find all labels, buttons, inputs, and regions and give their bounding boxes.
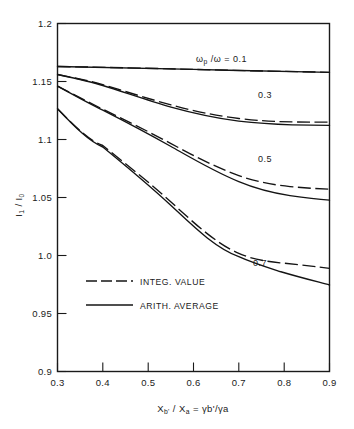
chart-background	[0, 0, 354, 429]
x-tick-label-0: 0.3	[50, 377, 64, 388]
y-tick-label-2: 1.0	[38, 250, 52, 261]
y-tick-label-5: 1.15	[32, 76, 52, 87]
y-tick-label-0: 0.9	[38, 366, 52, 377]
curve-annotation-1: 0.3	[258, 90, 272, 100]
y-tick-label-3: 1.05	[32, 192, 52, 203]
curve-annotation-2: 0.5	[258, 154, 272, 164]
x-tick-label-5: 0.8	[277, 377, 291, 388]
curve-annotation-3: 0.7	[253, 258, 267, 268]
y-tick-label-1: 0.95	[32, 308, 52, 319]
x-tick-label-2: 0.5	[141, 377, 155, 388]
legend-label-arith-average: ARITH. AVERAGE	[140, 301, 219, 311]
x-tick-label-3: 0.6	[186, 377, 200, 388]
x-tick-label-4: 0.7	[232, 377, 246, 388]
line-chart-svg: 0.9 0.95 1.0 1.05 1.1 1.15 1.2 0.3 0.4 0…	[0, 0, 354, 429]
y-tick-label-6: 1.2	[38, 18, 52, 29]
x-tick-label-6: 0.9	[322, 377, 336, 388]
chart-figure: 0.9 0.95 1.0 1.05 1.1 1.15 1.2 0.3 0.4 0…	[0, 0, 354, 429]
x-tick-label-1: 0.4	[96, 377, 110, 388]
legend-label-integ-value: INTEG. VALUE	[140, 277, 205, 287]
y-tick-label-4: 1.1	[38, 134, 52, 145]
